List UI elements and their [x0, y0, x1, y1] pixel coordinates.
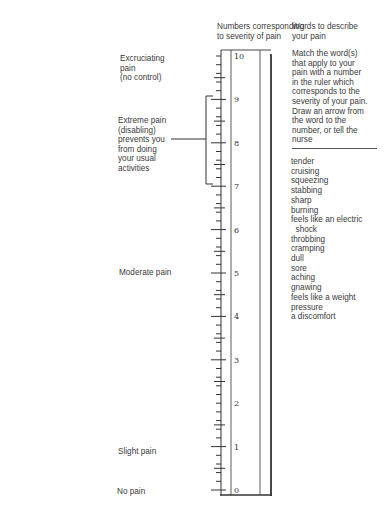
extreme-pain-bracket	[171, 96, 213, 184]
pain-word-item[interactable]: stabbing	[291, 186, 362, 196]
ruler-number-7[interactable]: 7	[234, 182, 239, 191]
pain-word-item[interactable]: dull	[291, 254, 362, 264]
pain-word-item[interactable]: feels like a weight	[291, 293, 362, 303]
ruler-number-3[interactable]: 3	[234, 356, 239, 365]
pain-word-item[interactable]: shock	[291, 225, 362, 235]
pain-word-item[interactable]: pressure	[291, 303, 362, 313]
ruler-number-6[interactable]: 6	[234, 226, 239, 235]
ruler-number-1[interactable]: 1	[234, 443, 239, 452]
pain-word-item[interactable]: feels like an electric	[291, 215, 362, 225]
ruler-number-0[interactable]: 0	[234, 486, 239, 495]
pain-word-item[interactable]: sore	[291, 264, 362, 274]
pain-word-list: tendercruisingsqueezingstabbingsharpburn…	[291, 157, 362, 322]
ruler-number-9[interactable]: 9	[234, 95, 239, 104]
pain-word-item[interactable]: throbbing	[291, 235, 362, 245]
pain-word-item[interactable]: a discomfort	[291, 312, 362, 322]
ruler-number-2[interactable]: 2	[234, 399, 239, 408]
ruler-ticks	[211, 56, 226, 490]
ruler-frame	[220, 50, 272, 496]
pain-word-item[interactable]: squeezing	[291, 176, 362, 186]
ruler-number-10[interactable]: 10	[234, 52, 244, 61]
ruler-number-5[interactable]: 5	[234, 269, 239, 278]
pain-word-item[interactable]: cramping	[291, 244, 362, 254]
ruler-numbers: 109876543210	[234, 52, 244, 495]
ruler-number-4[interactable]: 4	[234, 312, 239, 321]
pain-word-item[interactable]: cruising	[291, 167, 362, 177]
pain-word-item[interactable]: aching	[291, 273, 362, 283]
pain-word-item[interactable]: gnawing	[291, 283, 362, 293]
pain-word-item[interactable]: burning	[291, 206, 362, 216]
ruler-number-8[interactable]: 8	[234, 139, 239, 148]
pain-word-item[interactable]: sharp	[291, 196, 362, 206]
pain-word-item[interactable]: tender	[291, 157, 362, 167]
